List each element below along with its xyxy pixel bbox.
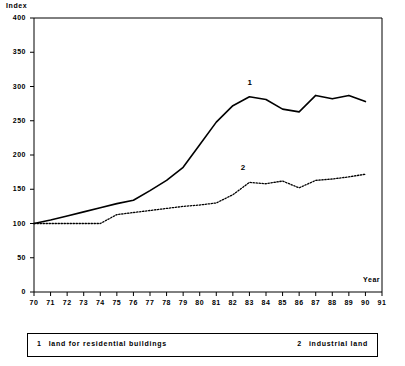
x-tick-label: 78	[158, 299, 176, 306]
series-key-label-2: 2	[241, 163, 245, 172]
x-axis-ticks	[34, 292, 382, 296]
y-tick-label: 150	[2, 185, 26, 192]
x-tick-label: 72	[58, 299, 76, 306]
x-tick-label: 77	[141, 299, 159, 306]
y-tick-label: 100	[2, 220, 26, 227]
x-tick-label: 91	[373, 299, 391, 306]
y-tick-label: 250	[2, 117, 26, 124]
y-tick-label: 200	[2, 151, 26, 158]
x-tick-label: 76	[124, 299, 142, 306]
legend-item-industrial: 2industrial land	[297, 340, 368, 347]
x-tick-label: 89	[340, 299, 358, 306]
legend-key-1: 1	[37, 340, 42, 347]
chart-container: Index Year 050100150200250300350400 7071…	[0, 0, 405, 366]
series-key-label-1: 1	[247, 78, 251, 87]
x-tick-label: 82	[224, 299, 242, 306]
x-tick-label: 80	[191, 299, 209, 306]
x-tick-label: 86	[290, 299, 308, 306]
y-tick-label: 350	[2, 48, 26, 55]
plot-area	[0, 0, 405, 366]
y-tick-label: 400	[2, 14, 26, 21]
x-tick-label: 83	[240, 299, 258, 306]
x-tick-label: 85	[274, 299, 292, 306]
x-tick-label: 75	[108, 299, 126, 306]
x-tick-label: 71	[42, 299, 60, 306]
y-tick-label: 50	[2, 254, 26, 261]
series-line-industrial	[34, 174, 365, 223]
x-tick-label: 90	[356, 299, 374, 306]
x-tick-label: 70	[25, 299, 43, 306]
legend-item-residential: 1land for residential buildings	[37, 340, 167, 347]
legend-label-2: industrial land	[309, 340, 368, 347]
x-tick-label: 84	[257, 299, 275, 306]
legend-label-1: land for residential buildings	[49, 340, 167, 347]
axis-frame	[34, 18, 382, 292]
x-tick-label: 79	[174, 299, 192, 306]
x-tick-label: 74	[91, 299, 109, 306]
y-tick-label: 300	[2, 83, 26, 90]
legend: 1land for residential buildings 2industr…	[27, 333, 378, 357]
legend-key-2: 2	[297, 340, 302, 347]
x-tick-label: 87	[307, 299, 325, 306]
x-tick-label: 81	[207, 299, 225, 306]
y-axis-ticks	[30, 18, 34, 292]
series-line-residential	[34, 95, 365, 223]
y-tick-label: 0	[2, 288, 26, 295]
x-tick-label: 88	[323, 299, 341, 306]
x-tick-label: 73	[75, 299, 93, 306]
